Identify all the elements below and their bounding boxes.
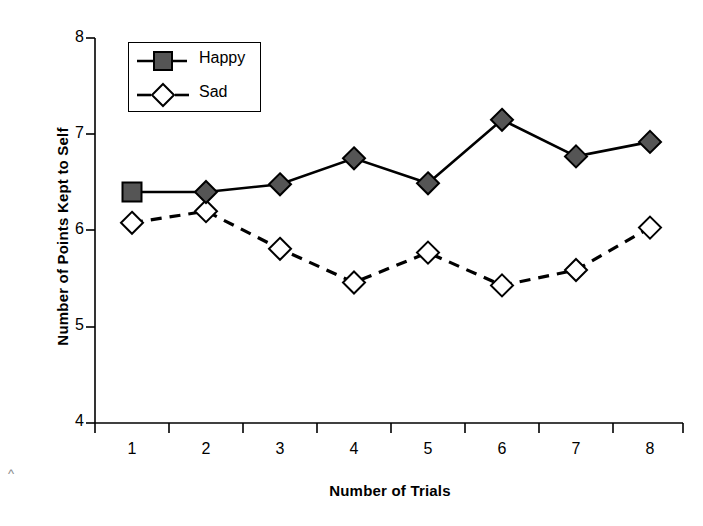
series-sad bbox=[121, 200, 661, 296]
legend-label-happy: Happy bbox=[199, 49, 245, 67]
data-point-marker-diamond bbox=[343, 272, 365, 294]
legend-label-sad: Sad bbox=[199, 83, 227, 101]
legend-marker-sad-icon bbox=[129, 77, 199, 112]
legend: Happy Sad bbox=[128, 42, 261, 112]
data-point-marker-diamond bbox=[565, 145, 587, 167]
data-point-marker-square bbox=[123, 183, 142, 202]
data-point-marker-diamond bbox=[269, 173, 291, 195]
data-point-marker-diamond bbox=[343, 147, 365, 169]
series-happy bbox=[123, 109, 662, 203]
data-point-marker-diamond bbox=[195, 181, 217, 203]
data-point-marker-diamond bbox=[639, 131, 661, 153]
data-point-marker-diamond bbox=[417, 242, 439, 264]
data-point-marker-diamond bbox=[639, 217, 661, 239]
legend-item-sad: Sad bbox=[129, 77, 260, 112]
plot-area bbox=[0, 0, 703, 526]
corner-artifact-mark: ^ bbox=[8, 466, 14, 481]
legend-item-happy: Happy bbox=[129, 43, 260, 78]
data-point-marker-diamond bbox=[565, 259, 587, 281]
data-point-marker-diamond bbox=[121, 212, 143, 234]
data-point-marker-diamond bbox=[269, 238, 291, 260]
x-axis-ticks bbox=[95, 423, 683, 433]
data-point-marker-diamond bbox=[491, 274, 513, 296]
legend-marker-happy-icon bbox=[129, 43, 199, 78]
y-axis-ticks bbox=[86, 38, 95, 423]
chart-figure: Number of Points Kept to Self Number of … bbox=[0, 0, 703, 526]
